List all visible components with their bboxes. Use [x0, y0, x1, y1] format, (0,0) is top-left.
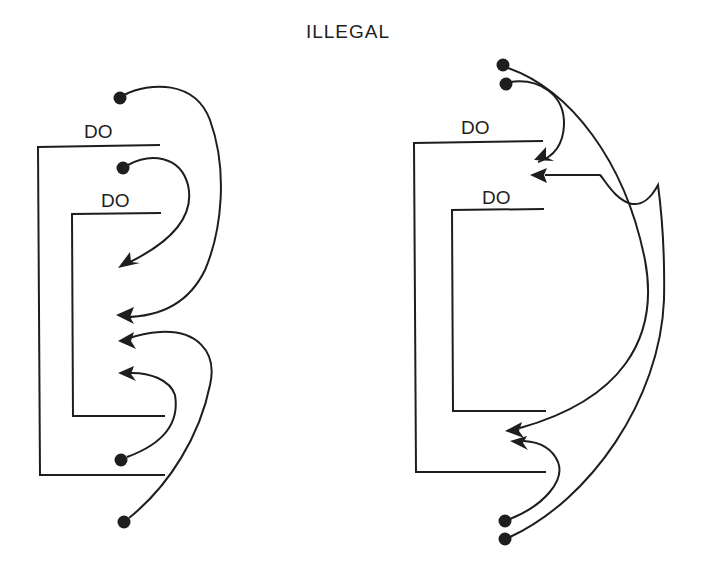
transfer-curve	[510, 81, 564, 162]
left-transfer-3	[118, 332, 212, 529]
start-dot-icon	[500, 78, 513, 91]
transfer-curve	[127, 373, 176, 457]
diagram-title: ILLEGAL	[306, 21, 390, 42]
left-outer-do-label: DO	[84, 121, 113, 142]
start-dot-icon	[499, 515, 512, 528]
transfer-curve	[128, 158, 189, 263]
right-diagram: DO DO	[414, 59, 664, 546]
right-transfer-c	[499, 168, 665, 546]
arrowhead-icon	[510, 436, 528, 450]
start-dot-icon	[118, 516, 131, 529]
left-inner-do-label: DO	[101, 190, 130, 211]
arrowhead-icon	[118, 252, 140, 268]
illegal-transfer-diagram: ILLEGAL DO DO	[0, 0, 701, 574]
left-diagram: DO DO	[38, 87, 221, 529]
start-dot-icon	[499, 533, 512, 546]
arrowhead-icon	[116, 307, 134, 324]
transfer-curve	[508, 68, 648, 428]
transfer-curve	[124, 87, 221, 317]
right-transfer-b	[497, 59, 649, 439]
transfer-curve	[510, 441, 559, 519]
arrowhead-icon	[505, 422, 524, 438]
arrowhead-icon	[118, 332, 136, 349]
arrowhead-icon	[530, 168, 547, 183]
start-dot-icon	[115, 454, 128, 467]
start-dot-icon	[114, 92, 127, 105]
right-outer-loop-bracket	[414, 141, 546, 472]
transfer-curve	[510, 175, 664, 537]
transfer-curve	[126, 332, 212, 518]
start-dot-icon	[117, 162, 130, 175]
right-inner-loop-bracket	[452, 209, 546, 411]
right-outer-do-label: DO	[461, 117, 490, 138]
right-transfer-a	[500, 78, 565, 163]
right-inner-do-label: DO	[482, 187, 511, 208]
start-dot-icon	[497, 59, 510, 72]
left-transfer-1	[114, 87, 221, 324]
